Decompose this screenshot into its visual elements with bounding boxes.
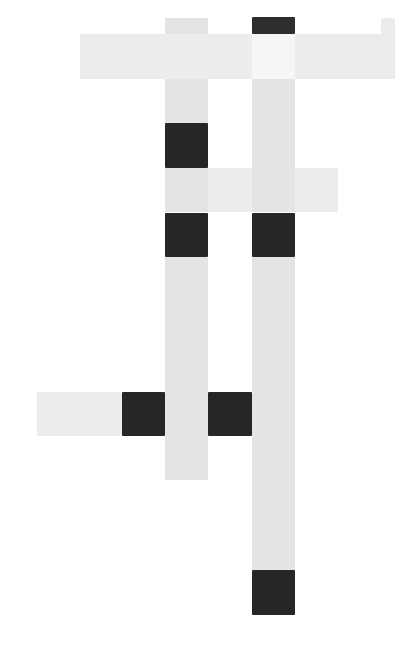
grid-cell[interactable] — [165, 79, 208, 123]
grid-cell[interactable] — [80, 392, 122, 436]
grid-cell[interactable] — [165, 168, 208, 212]
grid-cell[interactable] — [165, 436, 208, 480]
grid-cell[interactable] — [208, 168, 252, 212]
grid-cell[interactable] — [80, 34, 122, 79]
grid-cell[interactable] — [252, 480, 295, 525]
blocked-cell — [165, 123, 208, 168]
grid-cell[interactable] — [295, 168, 338, 212]
grid-cell[interactable] — [252, 79, 295, 123]
grid-cell[interactable] — [165, 34, 208, 79]
grid-cell[interactable] — [165, 18, 208, 34]
grid-cell[interactable] — [295, 34, 338, 79]
grid-cell[interactable] — [252, 436, 295, 480]
grid-cell[interactable] — [252, 301, 295, 346]
grid-cell[interactable] — [252, 34, 295, 79]
grid-cell[interactable] — [165, 301, 208, 346]
grid-cell[interactable] — [338, 34, 381, 79]
grid-cell[interactable] — [37, 392, 80, 436]
crossword-board — [0, 0, 395, 649]
grid-cell[interactable] — [381, 18, 395, 34]
grid-cell[interactable] — [252, 392, 295, 436]
blocked-cell — [252, 213, 295, 257]
grid-cell[interactable] — [252, 346, 295, 392]
grid-cell[interactable] — [252, 257, 295, 301]
grid-cell[interactable] — [252, 525, 295, 570]
grid-cell[interactable] — [381, 34, 395, 79]
blocked-cell — [252, 570, 295, 615]
grid-cell[interactable] — [208, 34, 252, 79]
grid-cell[interactable] — [252, 168, 295, 212]
blocked-cell — [165, 213, 208, 257]
grid-cell[interactable] — [165, 257, 208, 301]
blocked-cell — [208, 392, 252, 436]
grid-cell[interactable] — [252, 123, 295, 168]
grid-cell[interactable] — [165, 346, 208, 392]
blocked-cell — [122, 392, 165, 436]
grid-cell[interactable] — [122, 34, 165, 79]
grid-cell[interactable] — [165, 392, 208, 436]
blocked-cell — [252, 17, 295, 34]
